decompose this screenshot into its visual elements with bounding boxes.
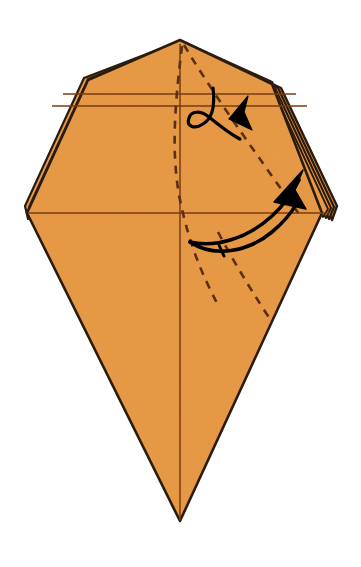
origami-diagram-root bbox=[0, 0, 361, 567]
origami-illustration bbox=[0, 0, 361, 567]
